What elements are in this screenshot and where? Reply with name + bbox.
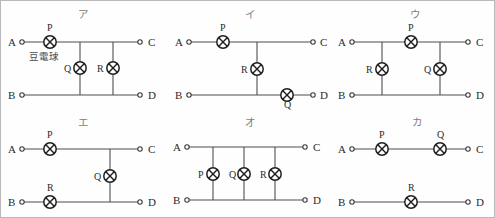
lamp-symbol-p-ka — [376, 143, 388, 155]
lamp-label-r-ka: R — [408, 182, 415, 193]
lamp-label-r-e: R — [47, 182, 54, 193]
terminal-dot-a — [20, 147, 24, 151]
lamp-label-r-i: R — [241, 64, 248, 75]
circuit-diagram-u: A C B D P R Q — [330, 0, 495, 109]
lamp-label-q-a: Q — [64, 63, 72, 74]
lamp-symbol-q-ka — [434, 143, 446, 155]
terminal-label-d: D — [148, 89, 156, 101]
circuit-panel-o: オ A C B D P — [165, 109, 330, 218]
terminal-dot-b — [20, 93, 24, 97]
lamp-label-p-e: P — [47, 129, 53, 140]
lamp-symbol-q-u — [434, 63, 446, 75]
terminal-dot-a — [350, 147, 354, 151]
terminal-dot-b — [20, 200, 24, 204]
terminal-label-b: B — [338, 196, 345, 208]
terminal-label-c: C — [476, 36, 483, 48]
terminal-dot-b — [350, 93, 354, 97]
terminal-label-d: D — [313, 194, 321, 206]
lamp-label-p-a: P — [47, 22, 53, 33]
circuit-diagram-e: A C B D P R Q — [0, 109, 165, 218]
terminal-dot-a — [187, 40, 191, 44]
circuit-diagram-a: A C B D P Q R 豆電球 — [0, 0, 165, 109]
lamp-symbol-r-u — [376, 63, 388, 75]
terminal-dot-a — [20, 40, 24, 44]
lamp-label-p-u: P — [408, 22, 414, 33]
bulb-caption-label: 豆電球 — [29, 51, 59, 62]
lamp-label-r-o: R — [260, 169, 267, 180]
terminal-dot-d — [466, 200, 470, 204]
terminal-label-d: D — [320, 89, 328, 101]
lamp-symbol-r-ka — [405, 196, 417, 208]
terminal-dot-d — [311, 93, 315, 97]
circuit-panel-ka: カ A C B D P Q — [330, 109, 495, 218]
circuit-panel-a: ア A C B D P Q — [0, 0, 165, 109]
terminal-dot-b — [185, 198, 189, 202]
lamp-symbol-r-a — [107, 62, 119, 74]
lamp-symbol-r-i — [251, 63, 263, 75]
terminal-label-c: C — [148, 36, 155, 48]
terminal-label-b: B — [175, 89, 182, 101]
terminal-dot-c — [311, 40, 315, 44]
lamp-label-r-a: R — [97, 63, 104, 74]
terminal-label-d: D — [148, 196, 156, 208]
terminal-dot-d — [138, 200, 142, 204]
terminal-label-a: A — [8, 36, 16, 48]
lamp-label-r-u: R — [366, 64, 373, 75]
lamp-label-q-u: Q — [424, 64, 432, 75]
terminal-dot-b — [187, 93, 191, 97]
terminal-label-d: D — [476, 89, 484, 101]
circuit-diagram-i: A C B D P R Q — [165, 0, 330, 109]
terminal-label-c: C — [476, 143, 483, 155]
circuit-panel-i: イ A C B D P R — [165, 0, 330, 109]
lamp-symbol-p-u — [405, 36, 417, 48]
terminal-label-b: B — [338, 89, 345, 101]
lamp-symbol-p-o — [207, 168, 219, 180]
terminal-dot-b — [350, 200, 354, 204]
circuit-panel-u: ウ A C B D P R — [330, 0, 495, 109]
terminal-dot-d — [138, 93, 142, 97]
lamp-label-p-ka: P — [379, 129, 385, 140]
terminal-label-c: C — [313, 141, 320, 153]
terminal-dot-c — [138, 147, 142, 151]
lamp-symbol-q-e — [104, 170, 116, 182]
lamp-symbol-q-a — [74, 62, 86, 74]
terminal-label-a: A — [175, 36, 183, 48]
lamp-symbol-p-i — [217, 36, 229, 48]
terminal-label-b: B — [8, 196, 15, 208]
terminal-label-a: A — [338, 36, 346, 48]
lamp-symbol-q-o — [238, 168, 250, 180]
terminal-dot-c — [466, 147, 470, 151]
figure-sheet: ア A C B D P Q — [0, 0, 495, 218]
terminal-dot-c — [466, 40, 470, 44]
terminal-dot-a — [185, 145, 189, 149]
lamp-label-p-o: P — [198, 169, 204, 180]
terminal-label-a: A — [8, 143, 16, 155]
lamp-symbol-r-e — [44, 196, 56, 208]
terminal-dot-c — [303, 145, 307, 149]
lamp-label-q-o: Q — [229, 169, 237, 180]
lamp-label-p-i: P — [220, 22, 226, 33]
terminal-label-d: D — [476, 196, 484, 208]
circuit-diagram-ka: A C B D P Q R — [330, 109, 495, 218]
terminal-dot-d — [303, 198, 307, 202]
lamp-symbol-p-a — [44, 36, 56, 48]
terminal-label-a: A — [338, 143, 346, 155]
terminal-label-b: B — [8, 89, 15, 101]
terminal-label-b: B — [173, 194, 180, 206]
terminal-label-a: A — [173, 141, 181, 153]
lamp-label-q-e: Q — [94, 171, 102, 182]
lamp-label-q-ka: Q — [437, 129, 445, 140]
terminal-label-c: C — [148, 143, 155, 155]
circuit-panel-e: エ A C B D P R — [0, 109, 165, 218]
terminal-dot-c — [138, 40, 142, 44]
lamp-symbol-r-o — [269, 168, 281, 180]
terminal-dot-a — [350, 40, 354, 44]
terminal-label-c: C — [320, 36, 327, 48]
lamp-symbol-p-e — [44, 143, 56, 155]
terminal-dot-d — [466, 93, 470, 97]
circuit-diagram-o: A C B D P Q R — [165, 109, 330, 218]
